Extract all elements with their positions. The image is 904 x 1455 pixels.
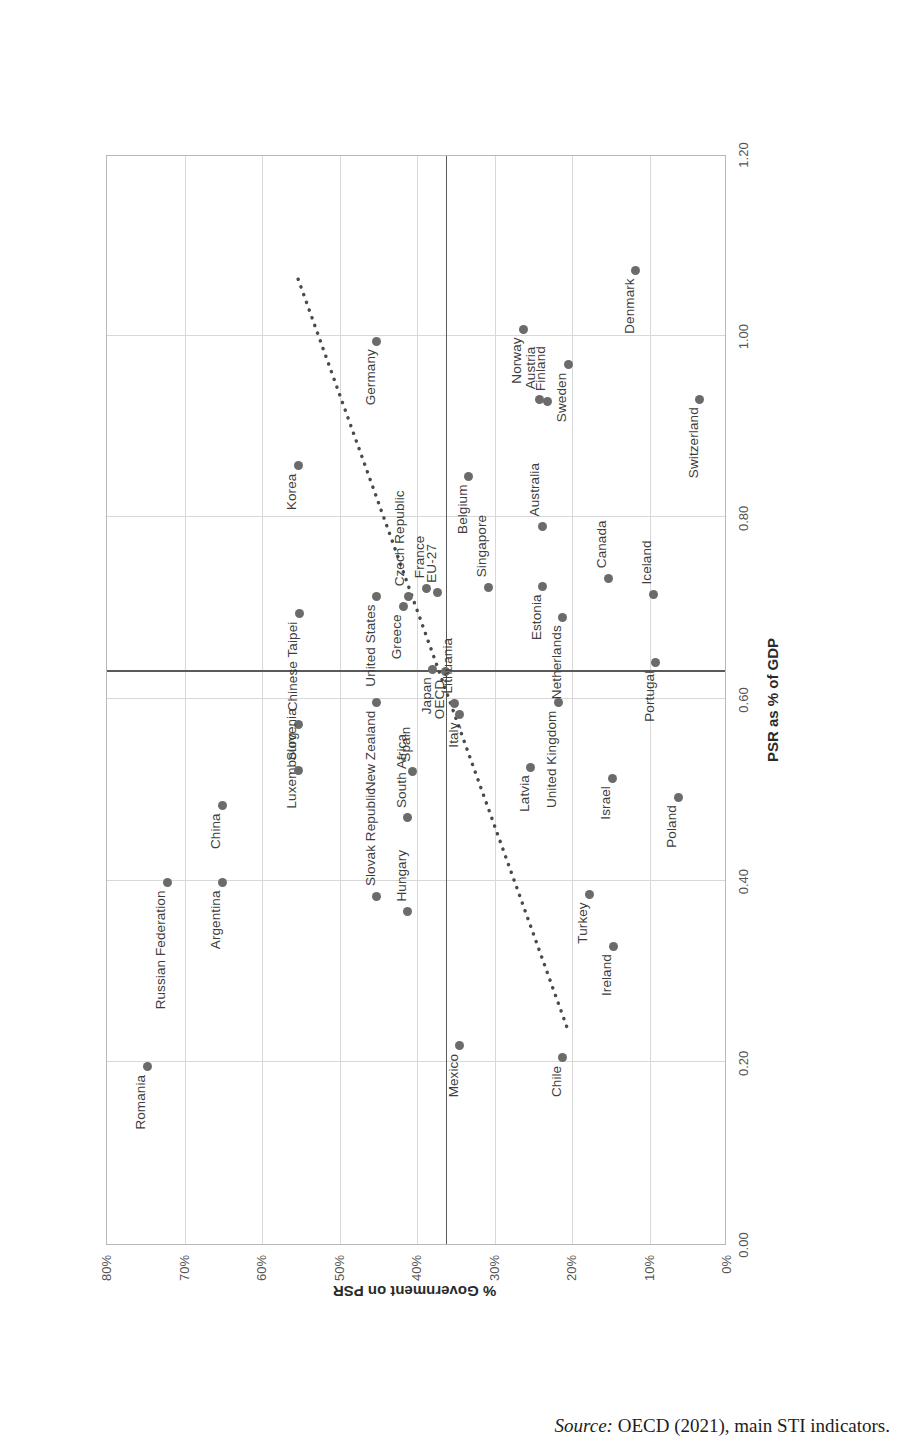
x-tick-label: 0.60 (736, 687, 751, 712)
data-point-label: Singapore (474, 514, 489, 576)
y-tick-label: 0% (719, 1255, 734, 1313)
data-point-label: Poland (664, 805, 679, 1244)
data-point (403, 907, 412, 916)
data-point-label: Mexico (446, 1053, 461, 1243)
y-tick-label: 70% (176, 1255, 191, 1313)
data-point-label: Latvia (517, 775, 532, 1244)
source-note: Source: OECD (2021), main STI indicators… (555, 1415, 890, 1437)
y-tick-label: 10% (641, 1255, 656, 1313)
data-point-label: EU-27 (424, 543, 439, 582)
data-point (484, 582, 493, 591)
data-point (554, 698, 563, 707)
data-point (428, 664, 437, 673)
x-tick-label: 0.20 (736, 1050, 751, 1075)
scatter-chart: RomaniaRussian FederationArgentinaChinaL… (58, 91, 810, 1331)
data-point-label: Lithuania (440, 637, 455, 693)
data-point (464, 471, 473, 480)
data-point (674, 792, 683, 801)
data-point (294, 461, 303, 470)
data-point (163, 877, 172, 886)
data-point (631, 265, 640, 274)
data-point-label: Germany (363, 349, 378, 1244)
x-tick-label: 0.00 (736, 1232, 751, 1257)
data-point (564, 360, 573, 369)
x-axis-title: PSR as % of GDP (764, 155, 781, 1245)
data-point (218, 800, 227, 809)
data-point (543, 396, 552, 405)
data-point-label: OECD (432, 679, 447, 1243)
data-point (609, 941, 618, 950)
data-point (408, 767, 417, 776)
data-point-label: Switzerland (686, 407, 701, 1244)
data-point (651, 658, 660, 667)
data-point (558, 612, 567, 621)
data-point (143, 1062, 152, 1071)
source-text: OECD (2021), main STI indicators. (613, 1415, 890, 1436)
source-label: Source: (555, 1415, 613, 1436)
data-point-label: Romania (133, 1074, 148, 1243)
data-point-label: Czech Republic (392, 490, 407, 586)
data-point-label: Portugal (642, 670, 657, 1243)
y-tick-label: 80% (99, 1255, 114, 1313)
data-point-label: China (208, 813, 223, 1244)
x-tick-label: 0.40 (736, 869, 751, 894)
data-point (519, 324, 528, 333)
data-point-label: Finland (533, 346, 548, 391)
data-point (399, 601, 408, 610)
data-point (538, 581, 547, 590)
data-point-label: Korea (284, 473, 299, 1243)
data-point-label: Chile (549, 1065, 564, 1243)
data-point-label: Greece (389, 614, 404, 1244)
data-point (649, 590, 658, 599)
data-point-label: Australia (527, 462, 542, 515)
data-point (422, 583, 431, 592)
plot-area: RomaniaRussian FederationArgentinaChinaL… (106, 155, 726, 1245)
data-point-label: Canada (594, 520, 609, 568)
data-point-label: Ireland (599, 954, 614, 1244)
data-point-label: Turkey (575, 902, 590, 1244)
data-point (538, 521, 547, 530)
data-point (404, 591, 413, 600)
y-axis-title: % Government on PSR (255, 1282, 575, 1299)
data-point (585, 889, 594, 898)
x-tick-label: 1.00 (736, 324, 751, 349)
data-point (608, 773, 617, 782)
data-point-label: Russian Federation (153, 890, 168, 1244)
x-tick-label: 0.80 (736, 505, 751, 530)
data-point-label: Denmark (622, 278, 637, 1244)
data-point (604, 573, 613, 582)
data-point-label: Iceland (639, 540, 654, 584)
x-tick-label: 1.20 (736, 142, 751, 167)
data-point (558, 1053, 567, 1062)
